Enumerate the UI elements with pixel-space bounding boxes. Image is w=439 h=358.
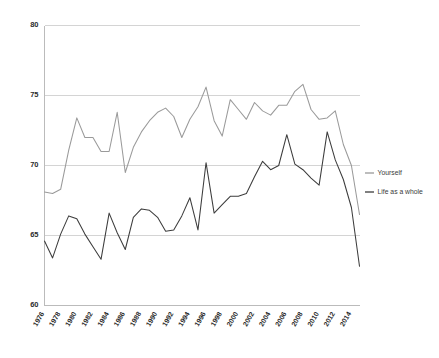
x-tick-label: 2002 [242,310,256,327]
x-tick-label: 1990 [145,310,159,327]
x-tick-label: 1998 [209,310,223,327]
data-series [45,84,360,266]
x-axis-tick-labels: 1976197819801982198419861988199019921994… [32,310,353,327]
x-tick-label: 2014 [338,310,352,327]
x-tick-label: 2000 [225,310,239,327]
legend-label-1: Life as a whole [378,188,424,195]
x-tick-label: 1978 [48,310,62,327]
x-tick-label: 2012 [322,310,336,327]
y-tick-label: 80 [30,20,38,29]
x-tick-label: 2004 [258,310,272,327]
gridlines [45,26,360,236]
y-axis-tick-labels: 6065707580 [30,20,38,309]
x-tick-label: 1996 [193,310,207,327]
x-tick-label: 1994 [177,310,191,327]
x-tick-label: 1984 [96,310,110,327]
x-tick-label: 2008 [290,310,304,327]
x-tick-label: 1986 [112,310,126,327]
x-tick-label: 2006 [274,310,288,327]
x-tick-label: 1976 [32,310,46,327]
legend-label-0: Yourself [378,169,402,176]
y-tick-label: 60 [30,300,38,309]
y-tick-label: 75 [30,90,38,99]
chart-legend: YourselfLife as a whole [365,169,423,195]
x-tick-label: 1988 [128,310,142,327]
x-tick-label: 2010 [306,310,320,327]
line-chart: 6065707580 19761978198019821984198619881… [0,0,439,358]
chart-canvas: 6065707580 19761978198019821984198619881… [0,0,439,358]
series-line-life-as-a-whole [45,132,360,266]
y-tick-label: 65 [30,230,38,239]
x-tick-label: 1982 [80,310,94,327]
y-tick-label: 70 [30,160,38,169]
x-tick-label: 1980 [64,310,78,327]
x-tick-label: 1992 [161,310,175,327]
